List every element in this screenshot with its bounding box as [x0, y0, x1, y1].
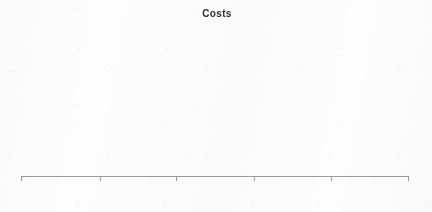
bar-chart: Costs 345 2011 332 2010 315 2009 278 200…: [0, 0, 432, 212]
plot-area: 345 2011 332 2010 315 2009 278 2008 250 …: [0, 0, 432, 212]
axis-tick: [176, 176, 177, 181]
axis-tick: [100, 176, 101, 181]
axis-tick: [21, 176, 22, 181]
x-axis-line: [21, 176, 409, 177]
axis-tick: [254, 176, 255, 181]
axis-tick: [408, 176, 409, 181]
axis-tick: [331, 176, 332, 181]
